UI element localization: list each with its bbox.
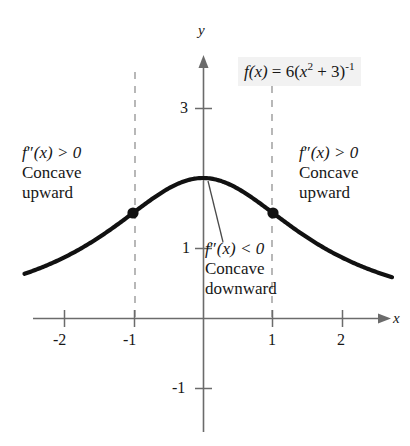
y-axis-arrowhead (199, 55, 209, 68)
formula-power: 2 (307, 60, 313, 72)
annotation-left-rest: (x) > 0 (34, 143, 81, 162)
annotation-left-line2: Concave (22, 163, 81, 183)
y-tick-label-neg1: -1 (172, 379, 185, 398)
inflection-point-left (127, 207, 138, 218)
annotation-left-concave-upward: f″(x) > 0 Concave upward (22, 143, 81, 203)
x-tick-label-pos1: 1 (268, 331, 276, 350)
annotation-right-line3: upward (299, 183, 358, 203)
function-formula-label: f(x) = 6(x2 + 3)-1 (238, 57, 361, 86)
y-axis-label: y (198, 22, 205, 40)
y-tick-label-3: 3 (180, 99, 188, 118)
annotation-right-line2: Concave (299, 163, 358, 183)
annotation-left-primes: ″ (27, 143, 34, 162)
y-tick-label-1: 1 (182, 239, 190, 258)
annotation-right-math: f″(x) > 0 (299, 143, 358, 163)
formula-equals: = 6( (272, 62, 300, 81)
annotation-center-line2: Concave (205, 259, 277, 279)
x-axis-label: x (393, 310, 400, 328)
formula-outer-power: -1 (345, 60, 354, 72)
x-axis-arrowhead (378, 314, 391, 324)
inflection-point-right (267, 207, 278, 218)
annotation-right-rest: (x) > 0 (311, 143, 358, 162)
annotation-center-math: f″(x) < 0 (205, 239, 277, 259)
annotation-left-line3: upward (22, 183, 81, 203)
formula-plus3: + 3) (317, 62, 345, 81)
leader-line-concave-downward (208, 181, 223, 242)
x-tick-label-neg2: -2 (53, 331, 66, 350)
annotation-center-line3: downward (205, 279, 277, 299)
x-tick-label-pos2: 2 (337, 331, 345, 350)
concavity-figure: y x -2 -1 1 2 3 1 -1 f(x) = 6(x2 + 3)-1 … (0, 0, 410, 446)
annotation-center-rest: (x) < 0 (217, 239, 264, 258)
annotation-center-primes: ″ (210, 239, 217, 258)
annotation-center-concave-downward: f″(x) < 0 Concave downward (205, 239, 277, 299)
annotation-right-primes: ″ (304, 143, 311, 162)
annotation-right-concave-upward: f″(x) > 0 Concave upward (299, 143, 358, 203)
annotation-left-math: f″(x) > 0 (22, 143, 81, 163)
formula-arg: (x) (249, 62, 268, 81)
x-tick-label-neg1: -1 (123, 331, 136, 350)
